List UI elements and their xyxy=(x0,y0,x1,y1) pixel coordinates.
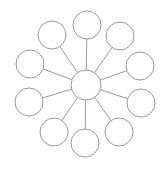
spoke-line-bottom xyxy=(85,100,86,129)
node-circle-top-right xyxy=(106,22,134,50)
node-circle-bottom-right xyxy=(105,118,133,146)
spoke-line-bottom-left xyxy=(62,97,78,120)
spoke-line-top xyxy=(86,39,87,70)
hub-circle xyxy=(71,70,101,100)
node-circle-left-lower xyxy=(15,88,43,116)
node-circle-bottom-left xyxy=(40,118,68,146)
node-circle-left-upper xyxy=(16,50,44,78)
spoke-line-right-lower xyxy=(100,90,127,99)
spoke-line-top-left xyxy=(60,47,78,73)
node-circle-right-upper xyxy=(126,52,154,80)
node-circle-top-left xyxy=(38,21,66,49)
spoke-line-top-right xyxy=(95,48,112,73)
spoke-line-left-upper xyxy=(43,69,72,80)
spoke-line-bottom-right xyxy=(95,97,111,120)
hub-node xyxy=(71,70,101,100)
spoke-line-left-lower xyxy=(42,89,71,98)
node-circle-right-lower xyxy=(127,89,155,117)
node-circle-top xyxy=(73,11,101,39)
node-circle-bottom xyxy=(71,129,99,157)
spoke-line-right-upper xyxy=(100,71,127,80)
hub-spoke-diagram xyxy=(0,0,164,171)
